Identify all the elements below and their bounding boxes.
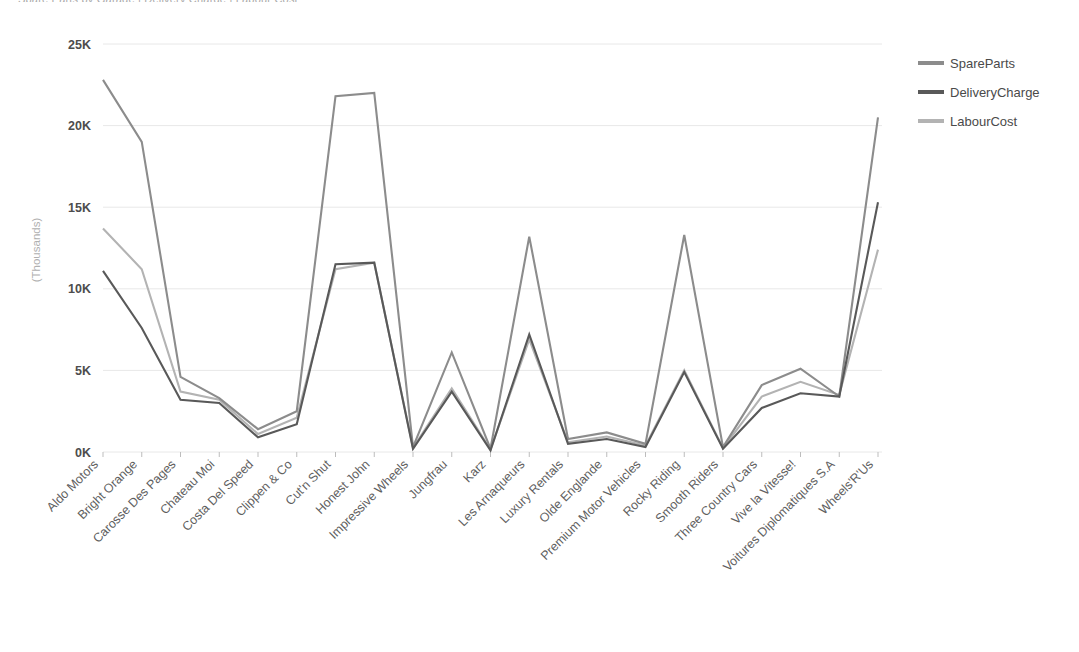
series-line-spareparts <box>103 80 878 449</box>
gridlines-group <box>103 44 882 452</box>
series-line-deliverycharge <box>103 202 878 450</box>
y-axis-tick-labels: 0K5K10K15K20K25K <box>68 38 91 460</box>
legend-label-spareparts[interactable]: SpareParts <box>950 56 1016 71</box>
legend-label-deliverycharge[interactable]: DeliveryCharge <box>950 85 1040 100</box>
y-tick-label: 0K <box>75 446 91 460</box>
x-category-label: Les Arnaqueurs <box>456 457 528 529</box>
chart-canvas: 0K5K10K15K20K25K (Thousands) Aldo Motors… <box>0 0 1079 652</box>
x-axis-tickmarks <box>103 452 878 457</box>
line-chart-figure: Spare Parts by Garage | Delivery Charge … <box>0 0 1079 652</box>
clipped-chart-header: Spare Parts by Garage | Delivery Charge … <box>18 0 298 2</box>
y-tick-label: 20K <box>68 119 91 133</box>
legend-label-labourcost[interactable]: LabourCost <box>950 114 1018 129</box>
y-tick-label: 15K <box>68 201 91 215</box>
x-category-label: Jungfrau <box>406 457 450 501</box>
y-axis-title: (Thousands) <box>30 218 42 283</box>
y-tick-label: 10K <box>68 282 91 296</box>
series-lines-group <box>103 80 878 450</box>
x-category-label: Karz <box>461 457 489 485</box>
y-axis-title-text: (Thousands) <box>30 218 42 283</box>
y-tick-label: 5K <box>75 364 91 378</box>
series-line-labourcost <box>103 228 878 449</box>
legend: SparePartsDeliveryChargeLabourCost <box>918 56 1040 129</box>
y-tick-label: 25K <box>68 38 91 52</box>
x-axis-category-labels: Aldo MotorsBright OrangeCarosse Des Page… <box>44 457 876 574</box>
x-category-label: Costa Del Speed <box>179 457 256 534</box>
